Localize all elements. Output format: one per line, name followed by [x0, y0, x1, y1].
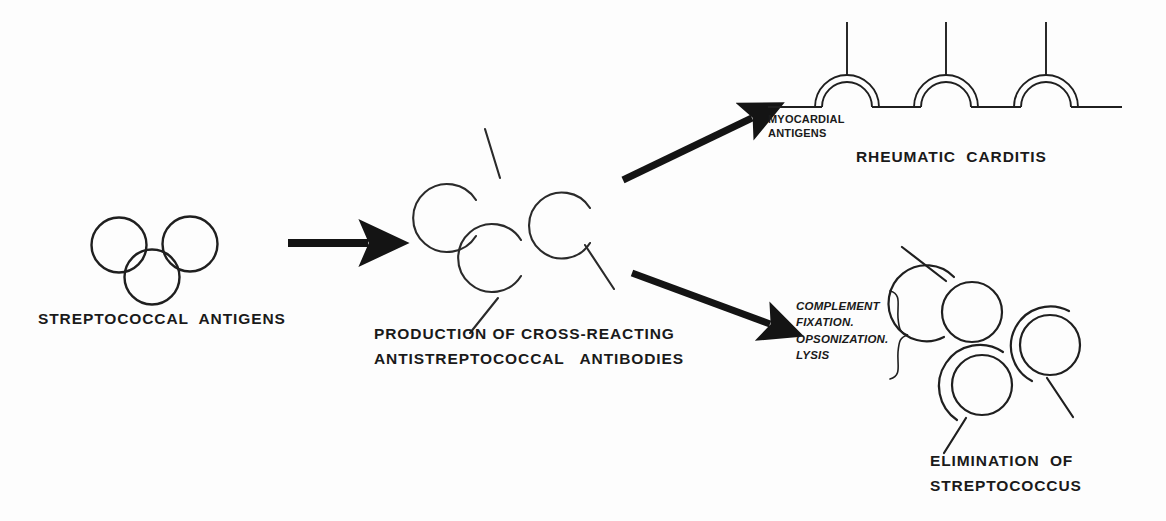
opsonized-organism: [889, 247, 1002, 342]
bound-antibody-arc: [1014, 75, 1078, 107]
streptococcus-circle: [952, 355, 1012, 415]
antibody-cluster: [413, 129, 614, 333]
streptococcus-circle: [1020, 315, 1080, 375]
antibody-binding-site: [914, 22, 978, 107]
elimination-caption-line2: STREPTOCOCCUS: [930, 477, 1082, 495]
elimination-caption-line1: ELIMINATION OF: [930, 452, 1073, 470]
mechanism-line3: OPSONIZATION.: [796, 333, 888, 345]
arrow-middle-to-myocardium: [623, 118, 752, 180]
diagram-canvas: [0, 0, 1166, 521]
myocardial-antigens-line2: ANTIGENS: [768, 127, 826, 139]
streptococcal-antigens-caption: STREPTOCOCCAL ANTIGENS: [38, 310, 286, 328]
antibody: [458, 224, 521, 333]
myocardial-antigen-arc: [921, 82, 971, 107]
antibody: [413, 129, 500, 252]
myocardial-antigen-arc: [1021, 82, 1071, 107]
mechanism-line2: FIXATION.: [796, 316, 854, 328]
antigen-circle: [163, 217, 218, 272]
production-caption-line1: PRODUCTION OF CROSS-REACTING: [374, 325, 675, 343]
immunology-diagram: STREPTOCOCCAL ANTIGENS PRODUCTION OF CRO…: [0, 0, 1166, 521]
opsonized-organism: [1011, 306, 1080, 417]
opsonized-organism: [939, 345, 1012, 453]
myocardial-antigens-line1: MYOCARDIAL: [768, 113, 845, 125]
rheumatic-carditis-caption: RHEUMATIC CARDITIS: [856, 148, 1047, 166]
antibody-tail: [902, 247, 946, 281]
antibody: [529, 193, 614, 290]
antibody-tail: [944, 418, 966, 453]
opsonized-streptococcus-cluster: [889, 247, 1080, 453]
antibody-tail: [1047, 378, 1073, 417]
antigen-circle: [125, 250, 180, 305]
myocardial-antigen-arc: [822, 82, 872, 107]
arrow-middle-to-elimination: [632, 273, 770, 324]
antigen-circle: [92, 218, 147, 273]
bound-antibody-arc: [815, 75, 879, 107]
antibody-binding-site: [815, 22, 879, 107]
myocardial-antigens-label: MYOCARDIALANTIGENS: [768, 112, 845, 141]
mechanism-line1: COMPLEMENT: [796, 300, 880, 312]
bound-antibody-arc: [914, 75, 978, 107]
streptococcus-circle: [942, 282, 1002, 342]
myocardium-membrane: [768, 22, 1122, 107]
streptococcal-antigen-cluster: [92, 217, 218, 305]
mechanism-line4: LYSIS: [796, 349, 829, 361]
complement-mechanism-label: COMPLEMENTFIXATION.OPSONIZATION.LYSIS: [796, 298, 888, 363]
production-caption-line2: ANTISTREPTOCOCCAL ANTIBODIES: [374, 350, 684, 368]
antibody-binding-site: [1014, 22, 1078, 107]
